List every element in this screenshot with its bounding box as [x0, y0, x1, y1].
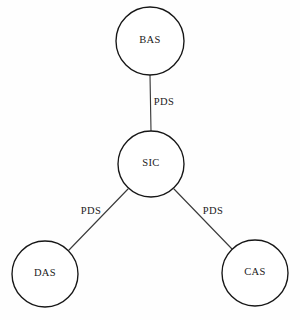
edge-sic-bas — [150, 75, 151, 131]
node-das[interactable]: DAS — [12, 241, 78, 307]
node-cas[interactable]: CAS — [222, 240, 288, 306]
diagram-canvas: BAS SIC DAS CAS PDS PDS PDS — [0, 0, 300, 320]
network-diagram: BAS SIC DAS CAS PDS PDS PDS — [0, 0, 300, 320]
node-sic[interactable]: SIC — [118, 131, 184, 197]
node-das-label: DAS — [34, 267, 56, 278]
edge-sic-cas — [174, 189, 232, 249]
edge-label-sic-das: PDS — [81, 205, 101, 216]
node-bas-label: BAS — [139, 34, 161, 45]
node-bas[interactable]: BAS — [116, 7, 184, 75]
node-cas-label: CAS — [244, 266, 266, 277]
edge-sic-das — [69, 189, 128, 250]
edge-label-sic-bas: PDS — [154, 96, 174, 107]
edge-label-sic-cas: PDS — [203, 205, 223, 216]
node-sic-label: SIC — [142, 157, 160, 168]
